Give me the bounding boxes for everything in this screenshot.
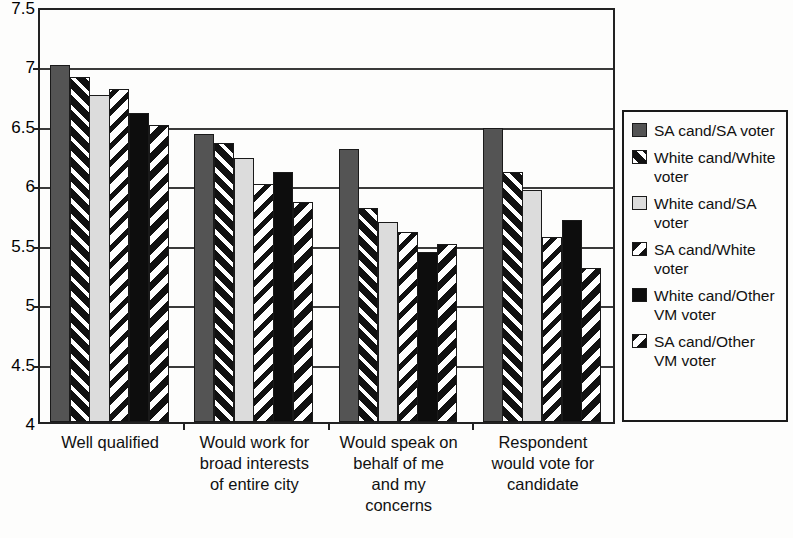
legend-item[interactable]: SA cand/SA voter [632,121,780,140]
bar [483,128,503,422]
bar [417,252,437,422]
bar [562,220,582,422]
category-label-line: Would speak on [329,432,469,453]
legend: SA cand/SA voterWhite cand/WhitevoterWhi… [622,110,788,422]
y-axis-tickmark [33,128,40,130]
legend-item[interactable]: SA cand/Whitevoter [632,240,780,278]
category-label-line: and my [329,474,469,495]
y-axis: 7.576.565.554.54 [0,0,35,438]
x-axis-category-labels: Well qualifiedWould work forbroad intere… [38,432,615,536]
legend-label: White cand/OtherVM voter [654,286,775,324]
legend-swatch-icon [632,196,647,210]
y-axis-tick-label: 5 [1,297,35,314]
y-axis-tick-label: 4 [1,416,35,433]
legend-swatch-icon [632,242,647,256]
legend-label: White cand/Whitevoter [654,148,775,186]
legend-label-line: SA cand/SA voter [654,121,775,140]
plot-area [38,8,615,424]
legend-label: SA cand/Whitevoter [654,240,756,278]
category-label-line: Respondent [473,432,613,453]
legend-swatch-icon [632,123,647,137]
y-axis-tickmark [33,366,40,368]
y-axis-tick-label: 5.5 [1,237,35,254]
legend-item[interactable]: White cand/Whitevoter [632,148,780,186]
legend-label: White cand/SAvoter [654,194,757,232]
legend-label-line: voter [654,167,775,186]
bar [437,244,457,422]
legend-label-line: White cand/SA [654,194,757,213]
category-label-line: behalf of me [329,453,469,474]
legend-label-line: SA cand/White [654,240,756,259]
bar [109,89,129,422]
bar [542,237,562,422]
legend-label: SA cand/OtherVM voter [654,332,755,370]
legend-label-line: voter [654,259,756,278]
x-axis-category-label: Would work forbroad interestsof entire c… [182,432,326,536]
category-label-line: concerns [329,495,469,516]
legend-label-line: VM voter [654,351,755,370]
y-axis-tick-label: 4.5 [1,356,35,373]
legend-label-line: VM voter [654,305,775,324]
bar [149,125,169,422]
bars-layer [40,10,613,422]
legend-swatch-icon [632,334,647,348]
category-label-line: broad interests [184,453,324,474]
legend-label-line: White cand/White [654,148,775,167]
legend-label-line: White cand/Other [654,286,775,305]
bar-chart-figure: 7.576.565.554.54 Well qualifiedWould wor… [0,0,793,538]
y-axis-tickmark [33,247,40,249]
bar [398,232,418,422]
y-axis-tick-label: 6.5 [1,118,35,135]
y-axis-tickmark [33,187,40,189]
category-label-line: of entire city [184,474,324,495]
bar [581,268,601,423]
y-axis-tick-label: 7.5 [1,0,35,17]
legend-item[interactable]: White cand/SAvoter [632,194,780,232]
bar [358,208,378,422]
legend-item[interactable]: SA cand/OtherVM voter [632,332,780,370]
bar [293,202,313,422]
x-axis-tickmark [472,422,474,430]
bar [378,222,398,422]
legend-label-line: voter [654,213,757,232]
x-axis-category-label: Well qualified [38,432,182,536]
bar [214,143,234,422]
y-axis-tick-label: 7 [1,59,35,76]
legend-item[interactable]: White cand/OtherVM voter [632,286,780,324]
legend-swatch-icon [632,288,647,302]
bar [339,149,359,422]
bar [253,184,273,422]
legend-swatch-icon [632,150,647,164]
legend-label: SA cand/SA voter [654,121,775,140]
y-axis-tick-label: 6 [1,178,35,195]
bar [502,172,522,422]
bar [89,95,109,422]
category-label-line: Would work for [184,432,324,453]
y-axis-tickmark [33,68,40,70]
x-axis-tickmark [328,422,330,430]
bar [129,113,149,422]
category-label-line: candidate [473,474,613,495]
x-axis-category-label: Would speak onbehalf of meand myconcerns [327,432,471,536]
bar [194,134,214,422]
legend-label-line: SA cand/Other [654,332,755,351]
bar [70,77,90,422]
x-axis-tickmark [183,422,185,430]
bar [234,158,254,422]
bar [522,190,542,422]
y-axis-tickmark [33,306,40,308]
bar [50,65,70,422]
bar [273,172,293,422]
x-axis-category-label: Respondentwould vote forcandidate [471,432,615,536]
category-label-line: would vote for [473,453,613,474]
category-label-line: Well qualified [40,432,180,453]
